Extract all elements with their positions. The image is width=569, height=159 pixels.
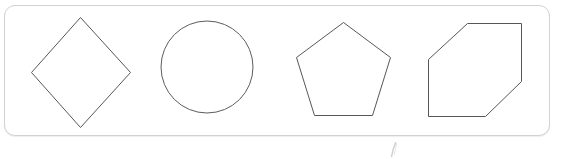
stray-mark-artifact: [389, 142, 399, 158]
circle-shape[interactable]: [161, 21, 253, 113]
screenshot-stage: [0, 0, 569, 159]
